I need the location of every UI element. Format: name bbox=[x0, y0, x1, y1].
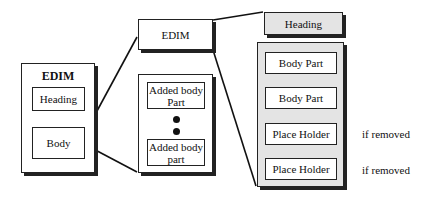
left-edim-title: EDIM bbox=[22, 69, 94, 84]
right-heading-box: Heading bbox=[264, 12, 343, 35]
ellipsis-dot-1 bbox=[173, 116, 180, 123]
right-body-part-2: Body Part bbox=[265, 87, 337, 109]
middle-body-container: Added body Part Added body part bbox=[138, 74, 213, 173]
left-heading-box: Heading bbox=[32, 87, 85, 111]
added-body-part-2: Added body part bbox=[147, 139, 205, 166]
if-removed-note-1: if removed bbox=[362, 128, 410, 140]
left-edim-container: EDIM Heading Body bbox=[21, 63, 95, 173]
middle-edim-label: EDIM bbox=[161, 29, 189, 41]
left-body-box: Body bbox=[32, 127, 85, 159]
right-placeholder-2: Place Holder bbox=[265, 158, 337, 180]
right-body-part-1: Body Part bbox=[265, 52, 337, 74]
right-body-container: Body Part Body Part Place Holder Place H… bbox=[257, 42, 344, 187]
if-removed-note-2: if removed bbox=[362, 164, 410, 176]
right-placeholder-1: Place Holder bbox=[265, 123, 337, 145]
right-heading-label: Heading bbox=[285, 18, 322, 30]
added-body-part-1: Added body Part bbox=[147, 82, 205, 109]
middle-edim-box: EDIM bbox=[138, 19, 213, 50]
ellipsis-dot-2 bbox=[173, 128, 180, 135]
